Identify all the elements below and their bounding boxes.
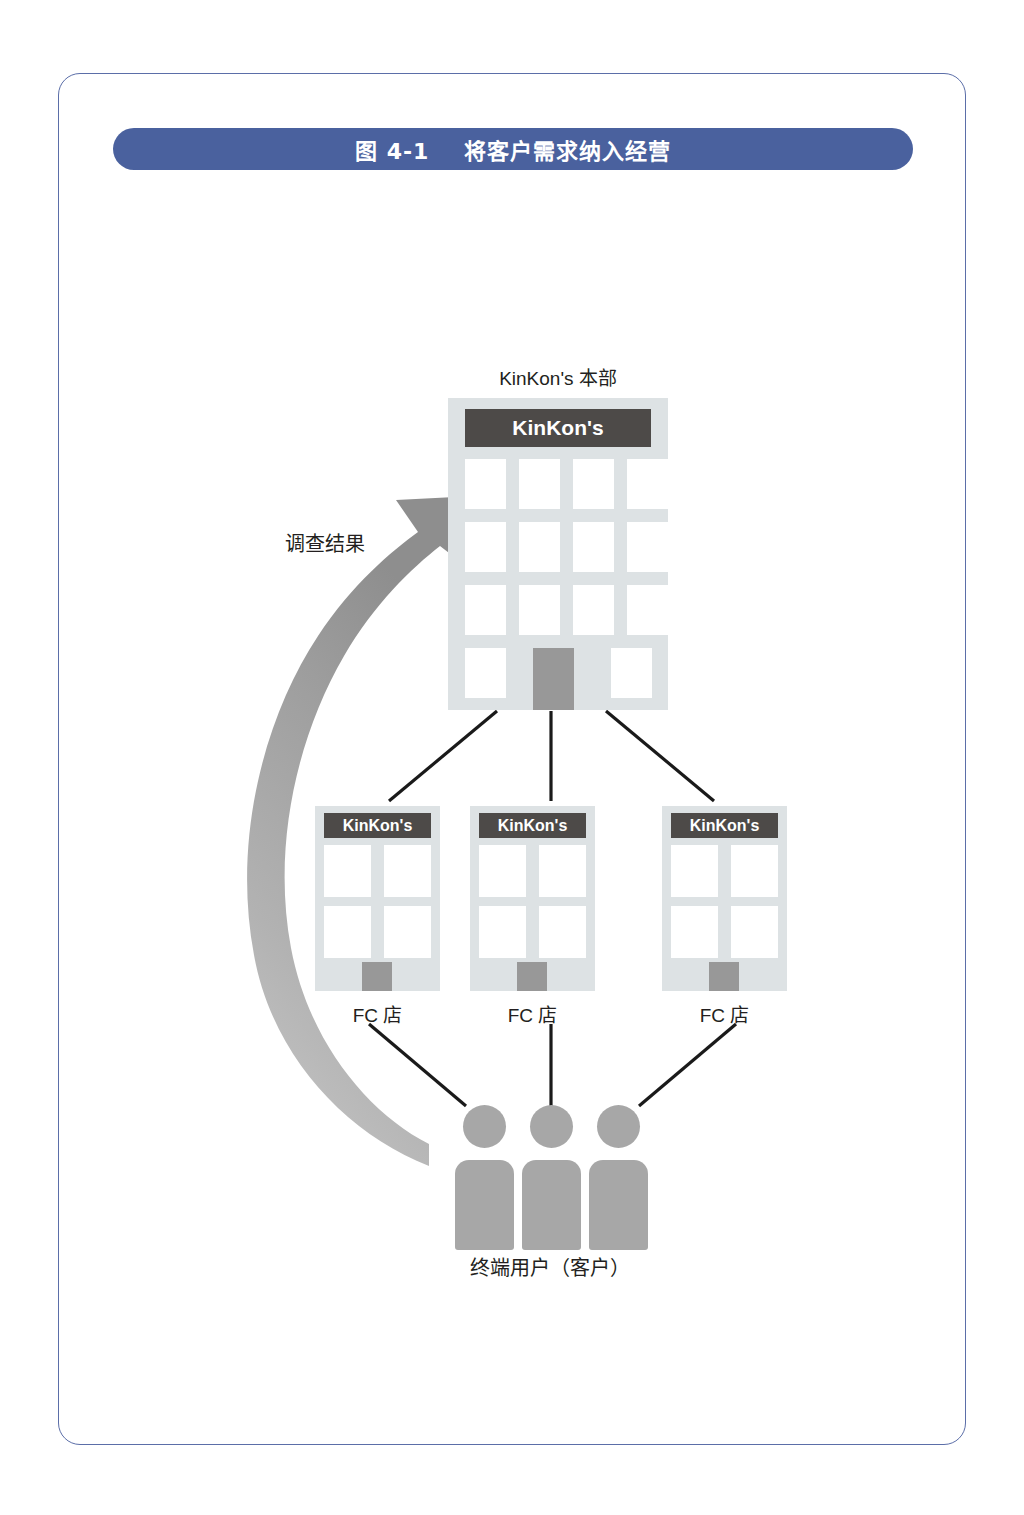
hq-to-store-line-left [389,711,497,801]
hq-window [611,648,652,698]
hq-window [573,459,614,509]
person-head [530,1105,573,1148]
fc-store-label-3: FC 店 [662,1000,787,1027]
fc-window [324,845,371,897]
hq-window [465,585,506,635]
hq-window [627,522,668,572]
fc-entrance-door [362,962,392,991]
person-icon [455,1105,514,1250]
fc-store-label-2: FC 店 [470,1000,595,1027]
fc-store-building-1: KinKon's [315,806,440,991]
fc-window [671,845,718,897]
survey-result-label: 调查结果 [285,528,365,557]
store-to-customer-line-right [639,1024,736,1106]
headquarters-sign: KinKon's [465,409,651,447]
hq-window [573,522,614,572]
fc-window [479,906,526,958]
fc-window [384,906,431,958]
fc-entrance-door [709,962,739,991]
hq-window [465,459,506,509]
hq-window [519,585,560,635]
store-to-customer-lines [369,1024,736,1106]
fc-store-building-3: KinKon's [662,806,787,991]
person-body [522,1160,581,1250]
fc-store-sign-text: KinKon's [690,817,760,835]
hq-window [465,648,506,698]
hq-window [573,585,614,635]
hq-window [627,459,668,509]
headquarters-building: KinKon's [448,398,668,710]
hq-entrance-door [533,648,574,710]
hq-window [627,585,668,635]
fc-window [479,845,526,897]
person-body [589,1160,648,1250]
person-body [455,1160,514,1250]
person-head [463,1105,506,1148]
fc-store-building-2: KinKon's [470,806,595,991]
fc-window [731,845,778,897]
fc-store-sign-3: KinKon's [671,813,778,838]
person-icon [522,1105,581,1250]
fc-store-sign-text: KinKon's [343,817,413,835]
fc-window [539,906,586,958]
hq-window [519,522,560,572]
store-to-customer-line-left [369,1024,466,1106]
customers-label: 终端用户（客户） [380,1252,720,1281]
fc-window [731,906,778,958]
hq-to-store-lines [389,711,714,801]
fc-store-sign-1: KinKon's [324,813,431,838]
person-head [597,1105,640,1148]
hq-window [465,522,506,572]
fc-store-sign-text: KinKon's [498,817,568,835]
org-flow-diagram: KinKon's 本部 KinKon's KinKon's [0,0,1024,1515]
headquarters-label: KinKon's 本部 [448,363,668,390]
fc-window [324,906,371,958]
hq-to-store-line-right [606,711,714,801]
fc-window [384,845,431,897]
fc-entrance-door [517,962,547,991]
fc-store-label-1: FC 店 [315,1000,440,1027]
hq-window [519,459,560,509]
fc-window [539,845,586,897]
connector-lines-layer [0,0,1024,1515]
fc-window [671,906,718,958]
person-icon [589,1105,648,1250]
headquarters-sign-text: KinKon's [512,416,603,440]
fc-store-sign-2: KinKon's [479,813,586,838]
